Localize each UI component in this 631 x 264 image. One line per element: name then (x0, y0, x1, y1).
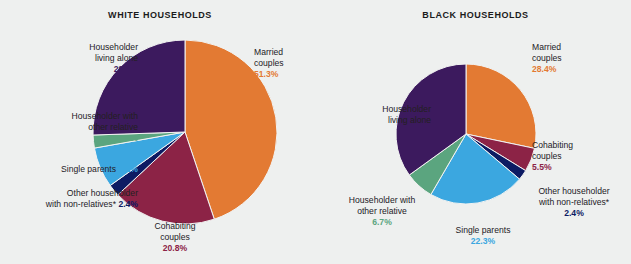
label-other-relative-black: Householder with other relative 6.7% (326, 195, 438, 229)
label-cohabiting-couples-white: Cohabiting couples 20.8% (124, 221, 226, 255)
label-text-line2: couples (532, 53, 562, 63)
label-living-alone-black: Householder living alone 35.1% (311, 104, 431, 138)
label-other-relative-white: Householder with other relative 2.6% (6, 111, 138, 145)
label-other-nonrelatives-black: Other householder with non-relatives* 2.… (518, 186, 630, 220)
label-text-line2: other relative (357, 206, 407, 216)
label-married-couples-white: Married couples 51.3% (254, 47, 328, 81)
label-text-line1: Cohabiting (154, 221, 195, 231)
label-text-line2: other relative (88, 122, 138, 132)
label-text-line2: living alone (388, 115, 431, 125)
label-text-line1: Householder with (72, 111, 138, 121)
label-other-nonrelatives-white: Other householder with non-relatives* 2.… (2, 188, 138, 210)
label-text-line1: Other householder (67, 188, 138, 198)
label-text-line1: Married (254, 47, 283, 57)
label-text-line2: couples (532, 151, 562, 161)
label-text-line1: Single parents (456, 225, 511, 235)
label-text-line2: couples (254, 58, 284, 68)
label-pct: 2.4% (118, 199, 138, 209)
label-text-line1: Householder (89, 42, 138, 52)
label-pct: 20.8% (163, 243, 187, 253)
label-pct: 6.7% (372, 217, 392, 227)
label-text-line1: Other householder (538, 186, 609, 196)
label-single-parents-white: Single parents 8.1% (6, 164, 138, 175)
label-pct: 22.3% (471, 236, 495, 246)
label-married-couples-black: Married couples 28.4% (532, 42, 608, 76)
label-text-line1: Householder with (349, 195, 415, 205)
pie-panel-black-households: BLACK HOUSEHOLDS Married couples 28.4% H… (320, 0, 631, 264)
label-pct: 2.4% (564, 208, 584, 218)
label-pct: 29.2% (114, 64, 138, 74)
label-living-alone-white: Householder living alone 29.2% (18, 42, 138, 76)
label-text-line1: Single parents (61, 164, 116, 174)
chart-title-white-households: WHITE HOUSEHOLDS (0, 10, 320, 20)
label-text-line1: Married (532, 42, 561, 52)
label-text-line2: with non-relatives* (539, 197, 609, 207)
label-text-line2: couples (160, 232, 190, 242)
label-text-line1: Cohabiting (532, 140, 573, 150)
label-pct: 8.1% (118, 164, 138, 174)
label-pct: 2.6% (118, 133, 138, 143)
label-text-line2: with non-relatives* (46, 199, 116, 209)
label-pct: 5.5% (532, 162, 552, 172)
pie-panel-white-households: WHITE HOUSEHOLDS Householder living alon… (0, 0, 320, 264)
label-cohabiting-couples-black: Cohabiting couples 5.5% (532, 140, 612, 174)
two-pie-chart-figure: WHITE HOUSEHOLDS Householder living alon… (0, 0, 631, 264)
label-single-parents-black: Single parents 22.3% (431, 225, 535, 247)
label-pct: 28.4% (532, 64, 556, 74)
label-pct: 35.1% (407, 126, 431, 136)
label-text-line2: living alone (95, 53, 138, 63)
label-text-line1: Householder (382, 104, 431, 114)
chart-title-black-households: BLACK HOUSEHOLDS (320, 10, 631, 20)
label-pct: 51.3% (254, 69, 278, 79)
